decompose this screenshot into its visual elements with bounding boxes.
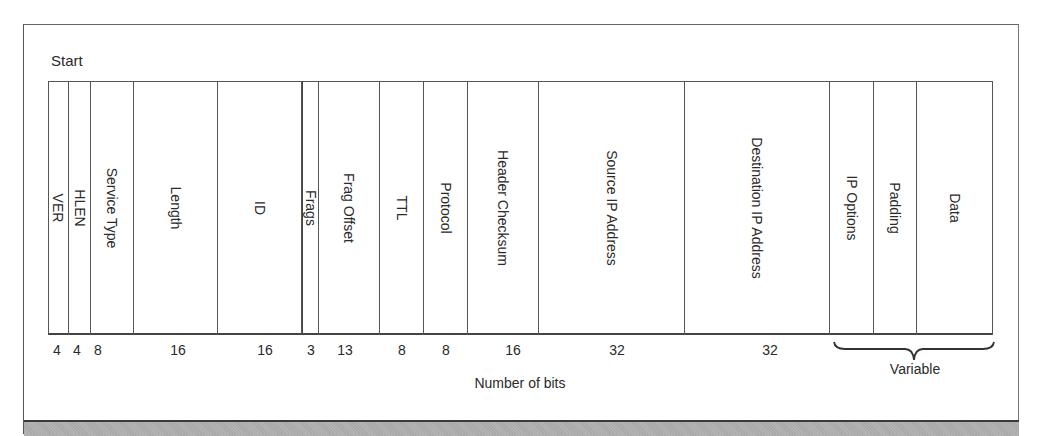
field-ip-options: IP Options	[830, 81, 874, 335]
bit-count: 8	[398, 342, 406, 358]
field-label: VER	[50, 194, 66, 223]
field-destination-ip-address: Destination IP Address	[685, 81, 830, 335]
bit-count: 16	[505, 342, 521, 358]
field-label: Protocol	[438, 182, 454, 233]
field-padding: Padding	[874, 81, 917, 335]
bit-count: 4	[53, 342, 61, 358]
field-frags: Frags	[302, 81, 319, 335]
field-label: Padding	[887, 182, 903, 233]
caption-bar	[24, 420, 1019, 436]
field-label: ID	[252, 201, 268, 215]
bit-count: 4	[73, 342, 81, 358]
field-data: Data	[917, 81, 993, 335]
field-label: TTL	[394, 196, 410, 221]
field-protocol: Protocol	[424, 81, 468, 335]
bit-count: 8	[94, 342, 102, 358]
variable-label: Variable	[890, 361, 940, 377]
field-label: Length	[168, 187, 184, 230]
axis-label: Number of bits	[474, 375, 565, 391]
start-label: Start	[51, 52, 83, 69]
bit-count: 32	[609, 342, 625, 358]
bit-count: 8	[442, 342, 450, 358]
field-frag-offset: Frag Offset	[319, 81, 380, 335]
field-id: ID	[218, 81, 302, 335]
bit-count: 13	[337, 342, 353, 358]
bit-count: 16	[170, 342, 186, 358]
bit-count: 16	[257, 342, 273, 358]
field-ttl: TTL	[380, 81, 424, 335]
bit-count: 32	[762, 342, 778, 358]
field-label: Source IP Address	[604, 150, 620, 266]
field-label: Frags	[303, 190, 319, 226]
field-service-type: Service Type	[91, 81, 134, 335]
field-label: Data	[947, 193, 963, 223]
field-label: IP Options	[844, 175, 860, 240]
field-source-ip-address: Source IP Address	[539, 81, 685, 335]
field-label: Destination IP Address	[749, 137, 765, 278]
field-header-checksum: Header Checksum	[468, 81, 539, 335]
field-label: Service Type	[104, 168, 120, 249]
field-label: Frag Offset	[341, 173, 357, 243]
field-label: HLEN	[72, 189, 88, 226]
bit-count: 3	[307, 342, 315, 358]
field-label: Header Checksum	[495, 150, 511, 266]
field-length: Length	[134, 81, 218, 335]
field-hlen: HLEN	[69, 81, 91, 335]
field-ver: VER	[48, 81, 69, 335]
